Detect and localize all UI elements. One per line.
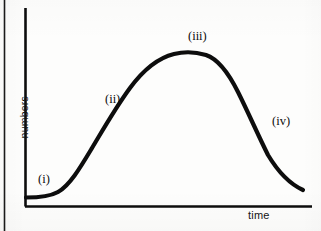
- x-axis-title: time: [248, 210, 270, 221]
- phase-label-i: (i): [38, 173, 50, 186]
- phase-label-ii: (ii): [105, 93, 120, 106]
- phase-label-iii: (iii): [188, 30, 207, 43]
- figure-container: numbers time (i) (ii) (iii) (iv): [0, 0, 321, 231]
- growth-curve-path: [26, 52, 303, 197]
- y-axis-title: numbers: [19, 86, 30, 148]
- phase-label-iv: (iv): [272, 115, 290, 128]
